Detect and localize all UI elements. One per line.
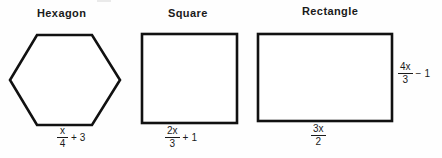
- scan-artifact: [97, 0, 111, 2]
- rectangle-height-constant: 1: [424, 68, 430, 80]
- rectangle-height-operator: −: [416, 68, 422, 80]
- square-title: Square: [168, 7, 208, 19]
- square-fraction: 2x 3: [165, 126, 180, 149]
- hexagon-title: Hexagon: [37, 7, 86, 19]
- square-numerator: 2x: [165, 126, 180, 137]
- rectangle-height-label: 4x 3 − 1: [398, 62, 430, 85]
- rectangle-title: Rectangle: [302, 5, 358, 17]
- hexagon-side-label: x 4 + 3: [57, 126, 85, 149]
- rectangle-shape: [256, 32, 396, 124]
- hexagon-denominator: 4: [58, 138, 68, 149]
- rectangle-width-numerator: 3x: [311, 124, 326, 135]
- hexagon-constant: 3: [80, 132, 86, 144]
- geometry-figure: Hexagon x 4 + 3 Square 2x 3 + 1 Rectangl…: [0, 0, 442, 158]
- rectangle-width-denominator: 2: [314, 136, 324, 147]
- rectangle-height-denominator: 3: [401, 74, 411, 85]
- hexagon-numerator: x: [58, 126, 67, 137]
- hexagon-shape: [8, 32, 124, 128]
- rectangle-height-numerator: 4x: [398, 62, 413, 73]
- square-shape: [140, 32, 240, 126]
- rectangle-height-fraction: 4x 3: [398, 62, 413, 85]
- rectangle-width-fraction: 3x 2: [311, 124, 326, 147]
- square-operator: +: [183, 132, 189, 144]
- square-side-label: 2x 3 + 1: [165, 126, 197, 149]
- square-denominator: 3: [168, 138, 178, 149]
- hexagon-operator: +: [71, 132, 77, 144]
- square-constant: 1: [191, 132, 197, 144]
- hexagon-fraction: x 4: [57, 126, 68, 149]
- rectangle-width-label: 3x 2: [311, 124, 326, 147]
